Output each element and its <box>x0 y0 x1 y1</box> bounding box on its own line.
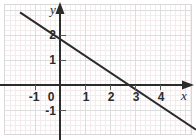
y-axis-label: y <box>48 2 56 17</box>
x-axis-label: x <box>180 88 187 103</box>
y-tick-label: 2 <box>49 28 56 42</box>
y-tick-label: -1 <box>45 104 56 118</box>
x-tick-label: -1 <box>29 90 40 104</box>
cartesian-line-graph: -1 0 1 2 3 4 -1 1 2 y x <box>0 0 196 140</box>
x-tick-label: 1 <box>83 90 90 104</box>
graph-canvas: -1 0 1 2 3 4 -1 1 2 y x <box>0 0 196 140</box>
x-tick-label: 4 <box>158 90 165 104</box>
x-tick-label: 3 <box>133 90 140 104</box>
x-tick-label: 0 <box>48 90 55 104</box>
y-tick-label: 1 <box>49 53 56 67</box>
x-tick-label: 2 <box>108 90 115 104</box>
